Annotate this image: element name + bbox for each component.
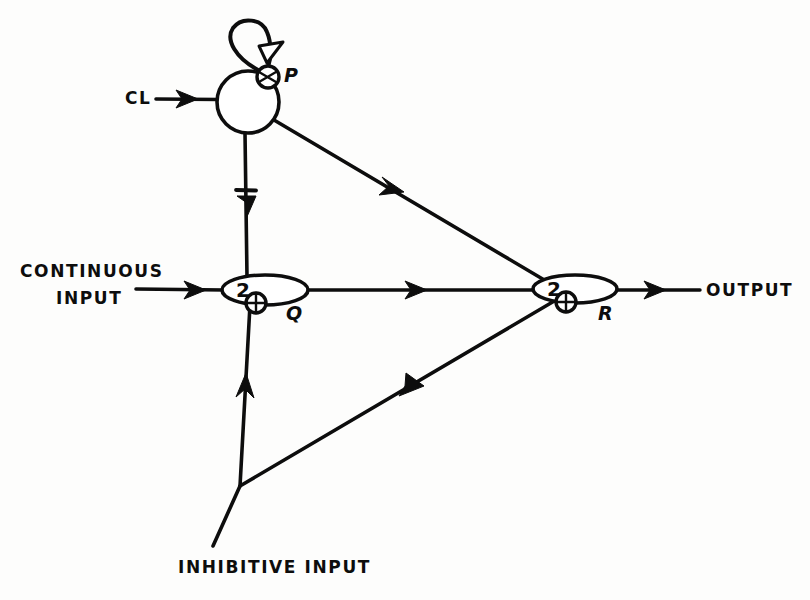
- node-p-label: P: [284, 64, 298, 86]
- edge-q-to-r: [308, 281, 534, 299]
- arrowhead-open-triangle: [259, 42, 283, 63]
- output-label: OUTPUT: [706, 280, 793, 300]
- edge-inhibitive-input-trunk: [213, 486, 240, 546]
- continuous-input-label: CONTINUOUS INPUT: [20, 261, 171, 308]
- diagram-canvas: P 2 Q 2 R CL CONTINUOUS INPUT INHIBITIV: [0, 0, 810, 600]
- neuron-network-diagram: P 2 Q 2 R CL CONTINUOUS INPUT INHIBITIV: [0, 0, 810, 600]
- node-r[interactable]: 2 R: [533, 275, 617, 324]
- edge-inhibitive-input-to-q: [236, 305, 254, 486]
- edge-continuous-input-to-q: [136, 281, 224, 299]
- clock-input-label: CL: [125, 88, 152, 108]
- edge-p-to-r: [274, 120, 546, 281]
- node-q-label: Q: [286, 302, 303, 324]
- edge-r-to-output: [617, 281, 700, 299]
- node-r-label: R: [598, 302, 613, 324]
- arrowhead-solid: [237, 196, 256, 219]
- node-p[interactable]: P: [217, 64, 298, 133]
- edge-p-to-q: [236, 133, 256, 277]
- edge-clock-input-to-p: [156, 90, 219, 108]
- edge-inhibitive-input-to-r: [240, 300, 556, 486]
- inhibitive-input-label: INHIBITIVE INPUT: [178, 557, 371, 577]
- node-q[interactable]: 2 Q: [222, 275, 308, 324]
- edge-p-self-loop: [230, 20, 283, 70]
- arrowhead-solid: [399, 373, 424, 396]
